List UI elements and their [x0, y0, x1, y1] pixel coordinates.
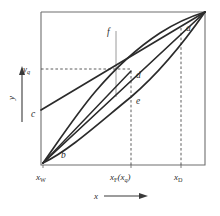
point-label-e: e	[136, 96, 140, 106]
point-label-d: d	[136, 70, 141, 80]
svg-text:xD: xD	[173, 172, 183, 183]
point-label-b: b	[61, 150, 66, 160]
x-axis-label: x	[93, 191, 98, 201]
y-axis-label: y	[6, 96, 16, 101]
point-label-f: f	[107, 27, 111, 37]
distillation-diagram: a b c d e f yq xW xF(xq) xD	[0, 0, 220, 216]
x-tick-label-xw: xW	[35, 172, 46, 183]
xf-paren-close: )	[127, 172, 131, 182]
x-tick-label-xf: xF(xq)	[109, 172, 131, 183]
svg-text:xF(xq): xF(xq)	[109, 172, 131, 183]
operating-curves	[41, 12, 205, 163]
svg-text:yq: yq	[22, 64, 30, 75]
right-arrow-icon	[139, 193, 148, 199]
svg-text:xW: xW	[35, 172, 46, 183]
rectifying-operating-line	[41, 12, 205, 110]
yq-subscript: q	[27, 68, 30, 75]
xw-subscript: W	[40, 176, 46, 183]
point-label-a: a	[186, 23, 191, 33]
xd-subscript: D	[178, 176, 183, 183]
feed-q-line	[43, 71, 131, 163]
y-tick-label-yq: yq	[22, 64, 30, 75]
point-label-c: c	[31, 109, 36, 119]
x-tick-label-xd: xD	[173, 172, 183, 183]
diagram-canvas: a b c d e f yq xW xF(xq) xD	[0, 0, 220, 216]
